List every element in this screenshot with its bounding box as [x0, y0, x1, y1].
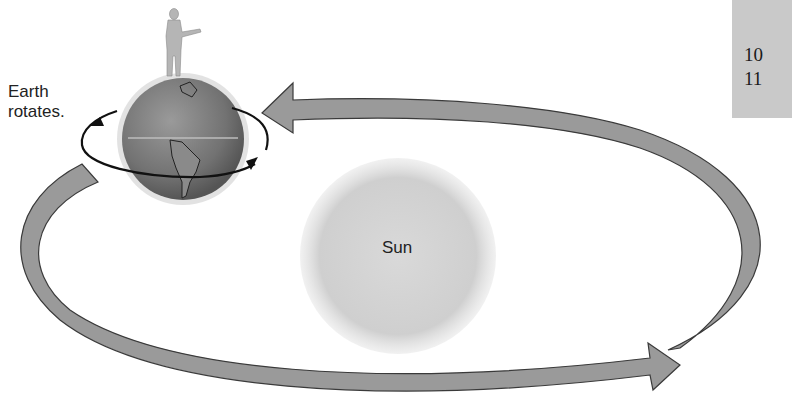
- side-panel-line-1: 10: [744, 44, 763, 66]
- earth-label-line2: rotates.: [8, 102, 65, 122]
- side-panel-line-2: 11: [744, 68, 762, 90]
- earth-globe: [122, 78, 244, 200]
- person-figure: [166, 9, 201, 77]
- side-panel: 10 11: [732, 0, 792, 118]
- sun-label: Sun: [382, 238, 412, 258]
- earth-rotates-label: Earth rotates.: [8, 82, 65, 122]
- earth-label-line1: Earth: [8, 82, 65, 102]
